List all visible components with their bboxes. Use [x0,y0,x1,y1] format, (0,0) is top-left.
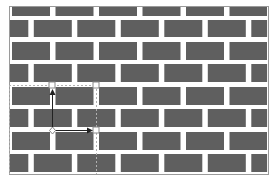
brick [12,132,50,150]
brick [164,109,202,127]
brick [56,42,94,60]
brick [34,154,72,172]
brick [208,20,246,37]
brick [208,64,246,82]
brick [251,154,267,172]
brick [143,132,181,150]
brick [121,154,159,172]
brick [9,20,28,37]
brick [77,20,115,37]
brick [12,7,50,16]
brick [99,87,137,105]
brick [143,87,181,105]
brick [186,132,224,150]
brick [99,132,137,150]
brick-pattern-canvas [0,0,272,181]
brick [230,7,268,16]
brick [164,154,202,172]
selection-handle[interactable] [93,127,99,133]
brick [56,132,94,150]
brick [77,64,115,82]
brick [208,109,246,127]
brick [230,87,268,105]
brick [230,132,268,150]
brick [56,7,94,16]
brick [164,64,202,82]
brick [121,64,159,82]
brick [12,87,50,105]
brick [9,64,28,82]
brick [251,109,267,127]
brick [251,20,267,37]
brick [121,109,159,127]
brick [34,64,72,82]
brick [251,64,267,82]
brick [99,7,137,16]
brick [186,42,224,60]
brick [99,42,137,60]
brick [12,42,50,60]
brick [186,87,224,105]
brick [34,20,72,37]
brick [56,87,94,105]
brick [208,154,246,172]
brick [9,109,28,127]
brick [143,42,181,60]
brick [230,42,268,60]
brick [164,20,202,37]
brick [9,154,28,172]
brick [186,7,224,16]
selection-handle[interactable] [93,82,99,88]
selection-handle[interactable] [49,82,55,88]
brick [121,20,159,37]
brick [143,7,181,16]
